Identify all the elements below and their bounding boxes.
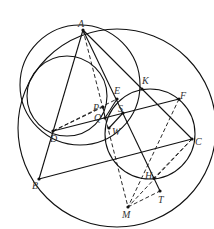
- geometry-figure: ABCDEKFPQSWHTM: [0, 0, 214, 229]
- label-K: K: [141, 75, 150, 86]
- point-T: [158, 189, 161, 192]
- geometry-diagram: ABCDEKFPQSWHTM: [0, 0, 214, 229]
- point-Q: [103, 116, 106, 119]
- point-E: [115, 97, 118, 100]
- point-K: [140, 87, 143, 90]
- label-T: T: [158, 194, 165, 205]
- label-A: A: [77, 18, 85, 29]
- label-Q: Q: [94, 112, 102, 123]
- label-W: W: [112, 126, 122, 137]
- label-B: B: [32, 180, 38, 191]
- label-C: C: [195, 136, 202, 147]
- label-S: S: [118, 103, 123, 114]
- label-M: M: [121, 209, 131, 220]
- circle-A-D-E: [20, 25, 140, 145]
- point-H: [152, 176, 155, 179]
- dashed-segment-FM: [128, 99, 179, 207]
- label-D: D: [49, 133, 58, 144]
- point-W: [107, 126, 110, 129]
- dashed-segment-MT: [128, 191, 160, 207]
- point-P: [101, 105, 104, 108]
- point-C: [190, 137, 193, 140]
- label-F: F: [179, 90, 187, 101]
- label-H: H: [144, 170, 153, 181]
- label-E: E: [113, 85, 120, 96]
- segment-AB: [39, 30, 83, 179]
